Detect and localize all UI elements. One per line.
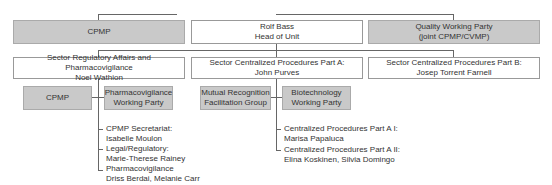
head-title: Head of Unit: [255, 32, 299, 42]
unit-cp-a2-title: Centralized Procedures Part A II:: [284, 145, 400, 155]
sector-c-up-v: [453, 50, 454, 57]
biotechnology-wp-box: Biotechnology Working Party: [282, 86, 351, 110]
sector-a-unit3-h: [98, 170, 103, 171]
pharmacovigilance-wp-line1: Pharmacovigilance: [105, 88, 173, 98]
sector-centralized-b-box: Sector Centralized Procedures Part B: Jo…: [368, 57, 540, 79]
top-connector-h: [98, 14, 177, 15]
unit-cpmp-secretariat-names: Isabelle Moulon: [106, 134, 162, 144]
pharmacovigilance-wp-box: Pharmacovigilance Working Party: [104, 86, 173, 110]
sector-a-groups-h: [92, 97, 104, 98]
qwp-label: Quality Working Party: [415, 22, 492, 32]
unit-cp-a1-names: Marisa Papaluca: [284, 134, 344, 144]
sector-centralized-a-head: John Purves: [255, 68, 299, 78]
sector-b-trunk: [276, 78, 277, 151]
sector-regulatory-box: Sector Regulatory Affairs and Pharmacovi…: [13, 57, 185, 79]
sector-regulatory-title: Sector Regulatory Affairs and Pharmacovi…: [14, 53, 184, 73]
cpmp-top-label: CPMP: [87, 27, 110, 37]
quality-working-party-box: Quality Working Party (joint CPMP/CVMP): [368, 20, 540, 44]
head-of-unit-box: Rolf Bass Head of Unit: [191, 20, 363, 44]
sector-regulatory-head: Noel Wathion: [75, 73, 123, 83]
qwp-sub: (joint CPMP/CVMP): [419, 32, 490, 42]
mutual-recognition-box: Mutual Recognition Facilitation Group: [200, 86, 271, 110]
unit-cp-a1-title: Centralized Procedures Part A I:: [284, 124, 398, 134]
unit-cpmp-secretariat-title: CPMP Secretariat:: [106, 124, 172, 134]
unit-pharmacovigilance-names: Driss Berdai, Melanie Carr: [106, 174, 200, 184]
sector-centralized-a-box: Sector Centralized Procedures Part A: Jo…: [191, 57, 363, 79]
sector-a-trunk: [98, 78, 99, 171]
unit-pharmacovigilance-title: Pharmacovigilance: [106, 164, 174, 174]
top-connector-h-right: [276, 14, 453, 15]
unit-legal-names: Marie-Therese Rainey: [106, 154, 185, 164]
mutual-recognition-line2: Facilitation Group: [204, 98, 267, 108]
unit-legal-title: Legal/Regulatory:: [106, 144, 169, 154]
biotechnology-wp-line1: Biotechnology: [291, 88, 341, 98]
sector-b-groups-h: [271, 97, 282, 98]
unit-cp-a2-names: Elina Koskinen, Silvia Domingo: [284, 155, 395, 165]
pharmacovigilance-wp-line2: Working Party: [113, 98, 163, 108]
cpmp-top-box: CPMP: [13, 20, 185, 44]
cpmp-group-label: CPMP: [46, 93, 69, 103]
sector-connector-h: [98, 50, 454, 51]
sector-a-unit2-h: [98, 149, 103, 150]
sector-centralized-a-title: Sector Centralized Procedures Part A:: [209, 58, 344, 68]
head-name: Rolf Bass: [260, 22, 294, 32]
sector-centralized-b-title: Sector Centralized Procedures Part B:: [386, 58, 522, 68]
sector-b-unit2-h: [276, 150, 281, 151]
sector-b-unit1-h: [276, 129, 281, 130]
sector-a-unit1-h: [98, 129, 103, 130]
biotechnology-wp-line2: Working Party: [291, 98, 341, 108]
cpmp-group-box: CPMP: [23, 86, 92, 110]
sector-centralized-b-head: Josep Torrent Farnell: [417, 68, 492, 78]
mutual-recognition-line1: Mutual Recognition: [201, 88, 269, 98]
